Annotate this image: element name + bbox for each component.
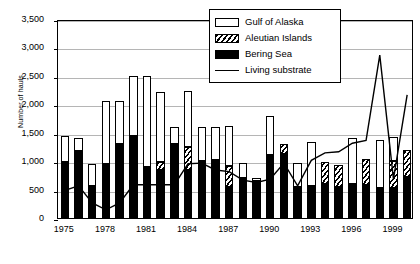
x-axis-tick-label: 1975 — [54, 224, 74, 234]
y-axis-tick-label: 0 — [39, 214, 44, 223]
x-axis-tick-label: 1987 — [218, 224, 238, 234]
y-axis-tick-label: 3,500 — [21, 15, 44, 24]
haul-count-chart: Number of hauls 05001,0001,5002,0002,500… — [0, 0, 420, 264]
hollow-bar-icon — [215, 18, 239, 27]
y-axis-tick-label: 1,500 — [21, 129, 44, 138]
hatched-bar-icon — [215, 34, 239, 43]
x-axis-tick-label: 1999 — [382, 224, 402, 234]
y-axis-tick-labels: 05001,0001,5002,0002,5003,0003,500 — [0, 0, 52, 264]
legend-item: Aleutian Islands — [215, 30, 335, 46]
x-axis-tick-label: 1981 — [136, 224, 156, 234]
x-axis-tick-label: 1990 — [259, 224, 279, 234]
y-axis-tick-label: 2,500 — [21, 72, 44, 81]
legend-item: Bering Sea — [215, 46, 335, 62]
x-axis-tick-label: 1996 — [341, 224, 361, 234]
legend-label: Gulf of Alaska — [245, 17, 304, 27]
y-axis-tick-mark — [54, 220, 58, 221]
x-axis-tick-label: 1978 — [95, 224, 115, 234]
y-axis-tick-label: 3,000 — [21, 43, 44, 52]
y-axis-tick-label: 1,000 — [21, 157, 44, 166]
x-axis-tick-label: 1984 — [177, 224, 197, 234]
legend-label: Aleutian Islands — [245, 33, 312, 43]
line-icon — [215, 70, 239, 71]
legend-label: Living substrate — [245, 65, 312, 75]
y-axis-tick-label: 500 — [29, 186, 44, 195]
legend-item: Living substrate — [215, 62, 335, 78]
filled-bar-icon — [215, 50, 239, 59]
chart-legend: Gulf of Alaska Aleutian Islands Bering S… — [209, 9, 341, 83]
y-axis-tick-label: 2,000 — [21, 100, 44, 109]
legend-label: Bering Sea — [245, 49, 292, 59]
x-axis-tick-label: 1993 — [300, 224, 320, 234]
legend-item: Gulf of Alaska — [215, 14, 335, 30]
